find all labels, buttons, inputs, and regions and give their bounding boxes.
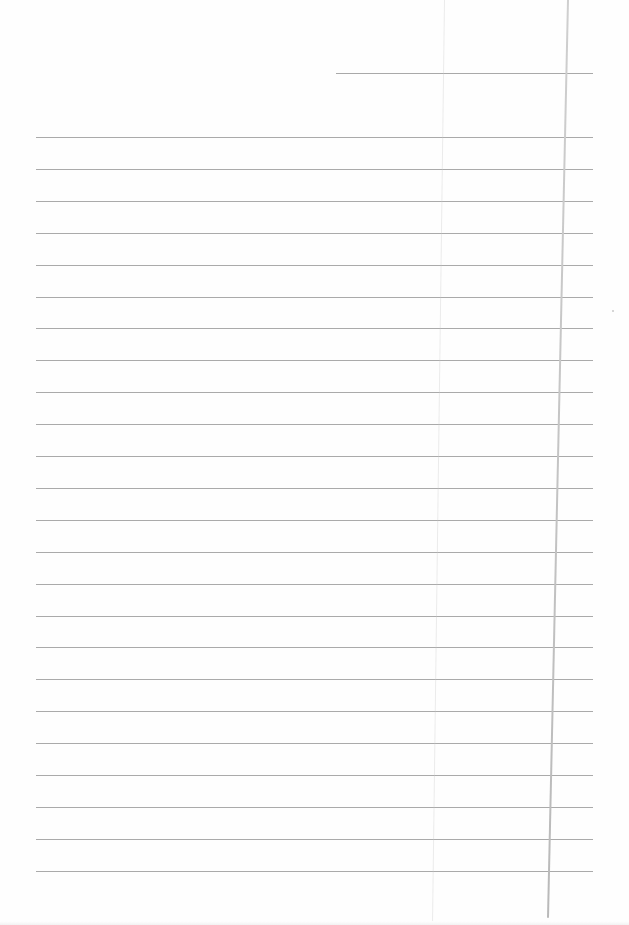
ruled-line bbox=[36, 456, 593, 457]
ruled-line bbox=[36, 169, 593, 170]
ruled-line bbox=[36, 711, 593, 712]
ruled-line bbox=[36, 743, 593, 744]
ruled-line bbox=[36, 424, 593, 425]
header-line bbox=[336, 73, 593, 74]
ruled-line bbox=[36, 616, 593, 617]
ruled-line bbox=[36, 520, 593, 521]
ruled-line bbox=[36, 328, 593, 329]
ruled-line bbox=[36, 297, 593, 298]
ruled-line bbox=[36, 201, 593, 202]
ruled-line bbox=[36, 488, 593, 489]
ruled-line bbox=[36, 360, 593, 361]
ruled-line bbox=[36, 552, 593, 553]
lined-paper-page bbox=[0, 0, 629, 925]
ruled-line bbox=[36, 679, 593, 680]
ruled-line bbox=[36, 775, 593, 776]
ruled-line bbox=[36, 233, 593, 234]
ruled-line bbox=[36, 584, 593, 585]
ruled-line bbox=[36, 647, 593, 648]
paper-speck bbox=[612, 310, 614, 312]
paper-crease bbox=[432, 0, 445, 925]
ruled-line bbox=[36, 807, 593, 808]
ruled-line bbox=[36, 871, 593, 872]
ruled-line bbox=[36, 137, 593, 138]
ruled-line bbox=[36, 265, 593, 266]
ruled-line bbox=[36, 839, 593, 840]
ruled-line bbox=[36, 392, 593, 393]
page-bottom-edge bbox=[0, 921, 629, 925]
